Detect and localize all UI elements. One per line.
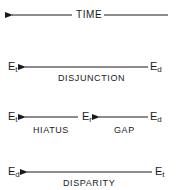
- event-left: Ed: [8, 166, 20, 179]
- event-right: Ed: [150, 111, 162, 124]
- disjunction-label: DISJUNCTION: [58, 74, 125, 83]
- event-right: Et: [155, 166, 165, 179]
- event-sub: d: [15, 170, 19, 179]
- event-sub: r: [89, 115, 92, 124]
- event-sub: t: [162, 170, 164, 179]
- event-sub: t: [15, 65, 17, 74]
- event-sub: d: [157, 65, 161, 74]
- event-sub: t: [15, 115, 17, 124]
- gap-label: GAP: [114, 126, 135, 135]
- time-label: TIME: [76, 10, 102, 20]
- event-left: Et: [8, 111, 18, 124]
- disparity-label: DISPARITY: [63, 179, 115, 188]
- event-middle: Er: [82, 111, 92, 124]
- diagram-lines: [0, 0, 176, 190]
- event-left: Et: [8, 61, 18, 74]
- hiatus-label: HIATUS: [33, 126, 69, 135]
- event-sub: d: [157, 115, 161, 124]
- event-right: Ed: [150, 61, 162, 74]
